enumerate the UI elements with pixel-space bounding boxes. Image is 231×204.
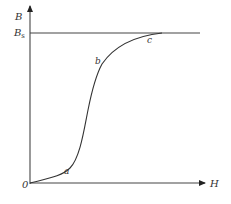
origin-label: 0 xyxy=(22,179,29,190)
saturation-label-sub: s xyxy=(21,32,25,40)
y-axis-label: B xyxy=(14,11,22,22)
saturation-label: Bs xyxy=(13,27,25,40)
saturation-label-main: B xyxy=(13,27,21,38)
point-a-label: a xyxy=(64,166,69,176)
magnetization-curve-diagram: B Bs 0 H a b c xyxy=(0,0,231,204)
x-axis-label: H xyxy=(209,178,219,189)
point-b-label: b xyxy=(95,56,101,66)
point-c-label: c xyxy=(147,35,152,45)
